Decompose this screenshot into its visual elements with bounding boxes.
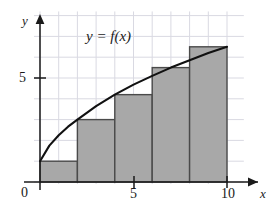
origin-tick-label: 0 xyxy=(21,186,28,200)
rectangle-bar xyxy=(40,161,77,182)
x-axis-arrowhead xyxy=(248,178,258,187)
rectangle-bar xyxy=(77,120,114,182)
rectangle-bar xyxy=(190,47,227,182)
chart-canvas xyxy=(0,0,277,210)
curve-equation-label: y = f(x) xyxy=(86,29,131,44)
y-axis-label: y xyxy=(22,14,28,27)
x-tick-label-10: 10 xyxy=(221,187,235,201)
x-tick-label-5: 5 xyxy=(130,187,137,201)
riemann-sum-figure: y x 0 5 5 10 y = f(x) xyxy=(0,0,277,210)
rectangle-bar xyxy=(152,68,189,182)
y-tick-label-5: 5 xyxy=(19,71,26,85)
rectangle-bar xyxy=(115,95,152,182)
x-axis-label: x xyxy=(260,187,266,200)
